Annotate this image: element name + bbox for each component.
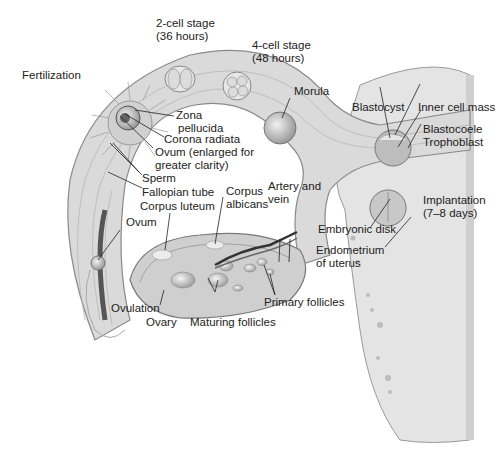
label-2cell-stage: 2-cell stage (36 hours): [156, 17, 215, 43]
label-blastocoele: Blastocoele: [423, 123, 482, 136]
label-ovulation: Ovulation: [111, 302, 160, 315]
label-morula: Morula: [294, 85, 329, 98]
label-fertilization: Fertilization: [22, 69, 81, 82]
label-inner-cell-mass: Inner cell mass: [418, 101, 495, 114]
label-corpus-albicans: Corpus albicans: [226, 185, 268, 211]
label-implantation: Implantation (7–8 days): [423, 194, 486, 220]
label-ovary: Ovary: [146, 316, 177, 329]
label-trophoblast: Trophoblast: [423, 136, 483, 149]
label-sperm: Sperm: [142, 172, 176, 185]
label-endometrium: Endometrium of uterus: [316, 244, 384, 270]
label-zona-pellucida: Zona pellucida: [176, 109, 223, 135]
label-ovum-enlarged: Ovum (enlarged for greater clarity): [155, 146, 254, 172]
reproductive-tract-illustration: [0, 0, 503, 452]
label-maturing-follicles: Maturing follicles: [190, 316, 276, 329]
label-embryonic-disk: Embryonic disk: [318, 223, 396, 236]
label-artery-vein: Artery and vein: [268, 180, 321, 206]
label-fallopian-tube: Fallopian tube: [142, 186, 214, 199]
two-cell-stage: [165, 66, 195, 92]
four-cell-stage: [223, 72, 251, 100]
label-corona-radiata: Corona radiata: [164, 133, 240, 146]
corpus-luteum: [152, 250, 172, 260]
label-4cell-stage: 4-cell stage (48 hours): [252, 39, 311, 65]
label-primary-follicles: Primary follicles: [264, 296, 345, 309]
morula: [264, 112, 296, 144]
label-blastocyst: Blastocyst: [352, 101, 404, 114]
label-corpus-luteum: Corpus luteum: [140, 200, 215, 213]
label-ovum: Ovum: [126, 216, 157, 229]
